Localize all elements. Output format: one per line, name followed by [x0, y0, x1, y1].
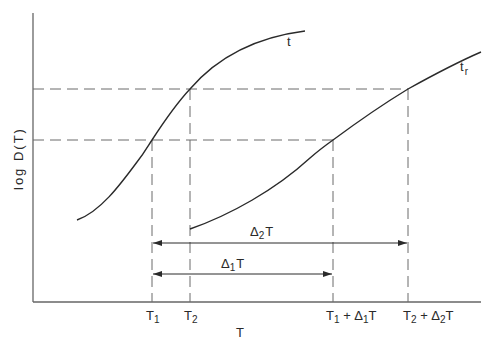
curve-t: [77, 31, 305, 220]
tick-T1: T1: [146, 308, 160, 325]
tick-T2-plus-D2T: T2 + Δ2T: [403, 308, 454, 325]
diagram-canvas: t tr Δ2T Δ1T T1 T2 T1 + Δ1T T2 + Δ2T T l…: [0, 0, 493, 350]
y-axis-label: log D(T): [11, 127, 26, 190]
tick-T1-plus-D1T: T1 + Δ1T: [326, 308, 377, 325]
tick-T2: T2: [184, 308, 198, 325]
label-delta2T: Δ2T: [250, 224, 273, 241]
label-curve-t: t: [287, 34, 291, 49]
label-delta1T: Δ1T: [221, 256, 244, 273]
label-curve-t-r: tr: [460, 59, 469, 77]
curve-t-r: [190, 52, 481, 229]
x-axis-label: T: [236, 325, 244, 340]
